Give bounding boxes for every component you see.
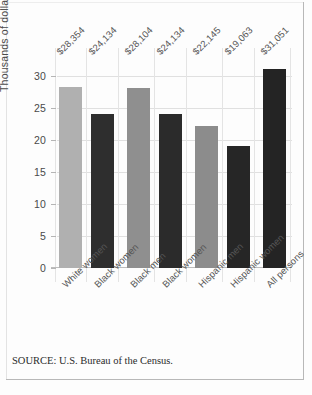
- bar: [127, 88, 150, 268]
- bar-value-label: $31,051: [258, 24, 291, 57]
- figure-border-right: [303, 2, 304, 380]
- category-separator: [290, 48, 291, 282]
- y-tick-mark: [51, 140, 56, 141]
- y-tick-label: 20: [24, 135, 46, 146]
- y-tick-mark: [51, 236, 56, 237]
- bar: [159, 114, 182, 268]
- bar: [59, 87, 82, 268]
- category-separator: [154, 48, 155, 282]
- bar-value-label: $24,134: [154, 24, 187, 57]
- y-tick-label: 15: [24, 167, 46, 178]
- y-tick-mark: [51, 108, 56, 109]
- y-tick-mark: [51, 172, 56, 173]
- gridline: [57, 76, 292, 77]
- y-tick-mark: [51, 204, 56, 205]
- y-tick-label: 0: [24, 263, 46, 274]
- figure-border-top: [6, 2, 304, 3]
- bar-value-label: $28,354: [54, 24, 87, 57]
- category-separator: [186, 48, 187, 282]
- gridline: [57, 108, 292, 109]
- y-tick-label: 10: [24, 199, 46, 210]
- category-separator: [118, 48, 119, 282]
- y-tick-mark: [51, 76, 56, 77]
- y-tick-mark: [51, 268, 56, 269]
- bar-value-label: $22,145: [190, 24, 223, 57]
- bar-value-label: $24,134: [86, 24, 119, 57]
- source-note: SOURCE: U.S. Bureau of the Census.: [12, 355, 173, 366]
- y-tick-label: 30: [24, 71, 46, 82]
- category-separator: [222, 48, 223, 282]
- plot-area: 051015202530 $28,354$24,134$28,104$24,13…: [57, 60, 292, 268]
- figure-border-bottom: [6, 379, 304, 380]
- y-tick-label: 25: [24, 103, 46, 114]
- category-separator: [55, 48, 56, 282]
- y-axis-title: Thousands of dollars: [0, 0, 10, 92]
- bar-value-label: $19,063: [222, 24, 255, 57]
- y-tick-label: 5: [24, 231, 46, 242]
- figure-container: Thousands of dollars 051015202530 $28,35…: [0, 0, 312, 395]
- category-separator: [86, 48, 87, 282]
- bar-value-label: $28,104: [122, 24, 155, 57]
- category-separator: [254, 48, 255, 282]
